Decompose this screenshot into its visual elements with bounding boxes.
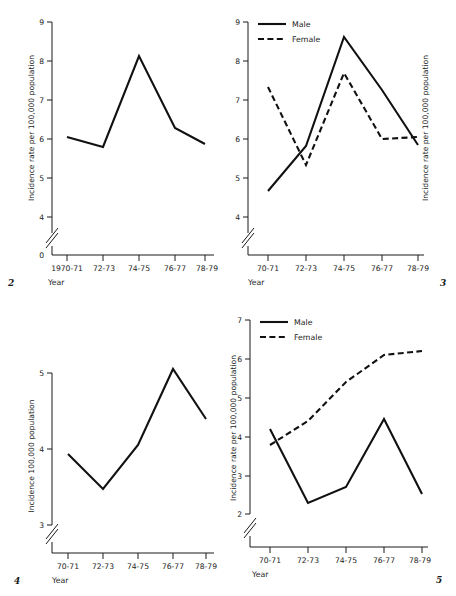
- x-axis-title: Year: [47, 278, 65, 287]
- legend-label-male: Male: [294, 318, 313, 327]
- x-ticks-fig2: [67, 255, 205, 261]
- y-ticks-fig2: [47, 22, 52, 217]
- chart-svg-fig4: 5 4 3 70-71 72-73 74-75 76-77 78-79 Year…: [0, 298, 228, 596]
- x-tick-label: 74-75: [333, 264, 355, 273]
- x-tick-label: 78-79: [196, 264, 218, 273]
- legend-label-male: Male: [292, 20, 311, 29]
- figure-page: 9 8 7 6 5 4 0 1970-71 72-73 74-75 76-77 …: [0, 0, 456, 596]
- y-tick-label: 6: [39, 135, 44, 144]
- y-tick-label: 5: [39, 369, 44, 378]
- figure-number: 5: [436, 575, 442, 585]
- chart-svg-fig3: 9 8 7 6 5 4 70-71 72-73 74-75 76-77 78-7…: [228, 0, 456, 298]
- y-tick-label: 3: [39, 521, 44, 530]
- x-tick-label: 78-79: [409, 556, 431, 565]
- series-line-female: [270, 351, 422, 445]
- y-tick-label: 2: [237, 510, 242, 519]
- y-tick-label: 5: [235, 174, 240, 183]
- y-tick-label-zero: 0: [39, 251, 44, 260]
- x-tick-label: 72-73: [92, 562, 114, 571]
- y-tick-label: 9: [235, 18, 240, 27]
- series-line-all: [68, 369, 206, 489]
- x-ticks-fig4: [68, 553, 206, 559]
- chart-panel-fig5: 7 6 5 4 3 2 70-71 72-73 74-75 76-77 78-7…: [228, 298, 456, 596]
- x-ticks-fig5: [270, 547, 422, 553]
- y-axis-title: Incidence 100,000 population: [27, 399, 36, 512]
- x-tick-label: 70-71: [57, 562, 79, 571]
- y-tick-label: 8: [235, 57, 240, 66]
- chart-panel-fig3: 9 8 7 6 5 4 70-71 72-73 74-75 76-77 78-7…: [228, 0, 456, 298]
- legend-label-female: Female: [292, 35, 320, 44]
- x-tick-label: 72-73: [295, 264, 317, 273]
- series-line-male: [268, 37, 418, 191]
- y-tick-label: 4: [39, 445, 44, 454]
- y-axis-title: Incidence rate per 100,000 population: [229, 355, 238, 501]
- x-tick-label: 78-79: [407, 264, 429, 273]
- x-tick-label: 72-73: [93, 264, 115, 273]
- x-axis-title: Year: [251, 570, 269, 579]
- legend-fig3: Male Female: [258, 20, 320, 44]
- figure-number: 3: [440, 278, 446, 288]
- y-tick-label: 5: [39, 174, 44, 183]
- x-tick-label: 78-79: [195, 562, 217, 571]
- chart-svg-fig5: 7 6 5 4 3 2 70-71 72-73 74-75 76-77 78-7…: [228, 298, 456, 596]
- chart-panel-fig4: 5 4 3 70-71 72-73 74-75 76-77 78-79 Year…: [0, 298, 228, 596]
- x-tick-label: 70-71: [257, 264, 279, 273]
- y-ticks-fig3: [243, 22, 248, 217]
- x-axis-title: Year: [51, 576, 69, 585]
- axes-fig4: [46, 373, 214, 553]
- x-axis-title: Year: [247, 278, 265, 287]
- x-tick-label: 76-77: [162, 562, 184, 571]
- y-ticks-fig4: [47, 373, 52, 525]
- x-tick-label: 76-77: [373, 556, 395, 565]
- y-tick-label: 7: [235, 96, 240, 105]
- legend-label-female: Female: [294, 333, 322, 342]
- x-ticks-fig3: [268, 255, 418, 261]
- legend-fig5: Male Female: [260, 318, 322, 342]
- figure-number: 2: [7, 278, 14, 288]
- series-line-male: [270, 419, 422, 503]
- series-line-female: [268, 73, 418, 165]
- x-tick-label: 76-77: [371, 264, 393, 273]
- x-tick-label: 74-75: [128, 264, 150, 273]
- y-axis-title: Incidence rate per 100,000 population: [27, 55, 36, 201]
- y-axis-title: Incidence rate per 100,000 population: [421, 55, 430, 201]
- x-tick-label: 74-75: [127, 562, 149, 571]
- y-tick-label: 9: [39, 18, 44, 27]
- y-tick-label: 7: [39, 96, 44, 105]
- y-tick-label: 4: [39, 213, 44, 222]
- x-tick-label: 1970-71: [51, 264, 83, 273]
- y-tick-label: 4: [235, 213, 240, 222]
- x-tick-label: 70-71: [259, 556, 281, 565]
- y-ticks-fig5: [245, 320, 250, 514]
- x-tick-label: 72-73: [297, 556, 319, 565]
- chart-panel-fig2: 9 8 7 6 5 4 0 1970-71 72-73 74-75 76-77 …: [0, 0, 228, 298]
- chart-svg-fig2: 9 8 7 6 5 4 0 1970-71 72-73 74-75 76-77 …: [0, 0, 228, 298]
- y-tick-label: 6: [235, 135, 240, 144]
- series-line-all: [67, 56, 205, 147]
- figure-number: 4: [14, 576, 20, 586]
- x-tick-label: 74-75: [335, 556, 357, 565]
- y-tick-label: 7: [237, 316, 242, 325]
- x-tick-label: 76-77: [164, 264, 186, 273]
- y-tick-label: 8: [39, 57, 44, 66]
